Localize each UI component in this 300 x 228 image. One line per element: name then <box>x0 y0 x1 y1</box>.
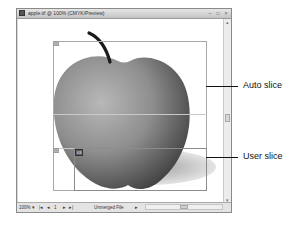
scroll-up-arrow[interactable]: ▴ <box>225 20 230 25</box>
horizontal-scroll-thumb[interactable] <box>180 205 188 209</box>
zoom-dropdown-icon[interactable]: ▾ <box>32 203 35 212</box>
vertical-scrollbar[interactable]: ▴ ▾ <box>223 19 231 204</box>
slice-tag-02[interactable]: 02 <box>53 148 59 153</box>
last-page-button[interactable]: ▸| <box>69 203 73 212</box>
document-window: apple.tif @ 100% (CMYK/Preview) – □ × <box>16 8 232 213</box>
next-page-button[interactable]: ▸ <box>63 203 66 212</box>
close-button[interactable]: × <box>223 10 229 16</box>
user-slice-label: User slice <box>243 151 283 161</box>
image-canvas[interactable]: 01 02 03 <box>18 19 223 204</box>
scroll-thumb[interactable] <box>225 114 230 122</box>
user-slice-outline[interactable] <box>74 148 207 191</box>
status-info: Unmerged File <box>94 203 124 212</box>
title-bar[interactable]: apple.tif @ 100% (CMYK/Preview) – □ × <box>17 9 231 19</box>
user-slice-callout-line <box>206 157 238 158</box>
auto-slice-label: Auto slice <box>243 80 282 90</box>
prev-page-button[interactable]: ◂ <box>47 203 50 212</box>
status-info-arrow-icon[interactable]: ▸ <box>135 203 138 212</box>
status-bar: 100% ▾ |◂ ◂ 1 ▸ ▸| Unmerged File ▸ <box>17 202 231 212</box>
maximize-button[interactable]: □ <box>215 10 221 16</box>
auto-slice-callout-line <box>206 86 238 87</box>
first-page-button[interactable]: |◂ <box>39 203 43 212</box>
minimize-button[interactable]: – <box>207 10 213 16</box>
slice-tag-01[interactable]: 01 <box>53 41 59 46</box>
window-title: apple.tif @ 100% (CMYK/Preview) <box>28 9 105 18</box>
slice-divider <box>53 114 207 115</box>
document-icon <box>19 10 25 16</box>
slice-tag-03[interactable]: 03 <box>75 149 83 156</box>
zoom-level[interactable]: 100% <box>19 203 31 212</box>
horizontal-scrollbar[interactable] <box>145 204 223 210</box>
page-number[interactable]: 1 <box>54 203 57 212</box>
